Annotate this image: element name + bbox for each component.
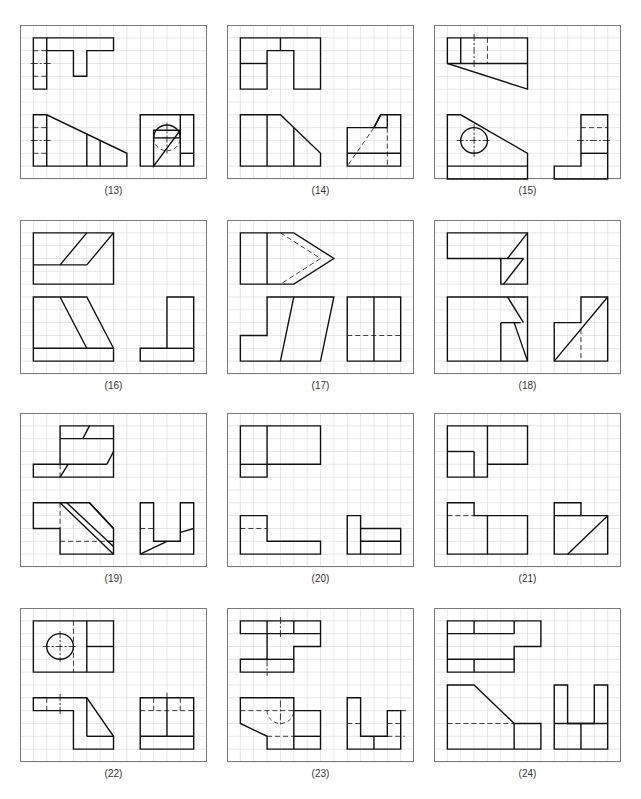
grid-drawing xyxy=(227,608,414,762)
figure-number-label: (20) xyxy=(227,573,414,584)
figure-number-label: (21) xyxy=(434,573,621,584)
figure-number-label: (22) xyxy=(20,768,207,779)
grid-drawing xyxy=(20,608,207,762)
figure-number-label: (14) xyxy=(227,185,414,196)
grid-drawing xyxy=(20,413,207,567)
drawing-panel-13 xyxy=(20,25,207,179)
figure-number-label: (19) xyxy=(20,573,207,584)
grid-drawing xyxy=(227,25,414,179)
grid-drawing xyxy=(434,608,621,762)
grid-drawing xyxy=(20,25,207,179)
figure-number-label: (16) xyxy=(20,380,207,391)
figure-number-label: (13) xyxy=(20,185,207,196)
figure-number-label: (23) xyxy=(227,768,414,779)
drawing-panel-17 xyxy=(227,220,414,374)
figure-number-label: (17) xyxy=(227,380,414,391)
figure-number-label: (24) xyxy=(434,768,621,779)
grid-drawing xyxy=(227,413,414,567)
drawing-panel-14 xyxy=(227,25,414,179)
drawing-panel-18 xyxy=(434,220,621,374)
drawing-panel-24 xyxy=(434,608,621,762)
drawing-panel-19 xyxy=(20,413,207,567)
drawing-panel-21 xyxy=(434,413,621,567)
drawing-panel-16 xyxy=(20,220,207,374)
drawing-panel-23 xyxy=(227,608,414,762)
drawing-panel-22 xyxy=(20,608,207,762)
figure-number-label: (15) xyxy=(434,185,621,196)
grid-drawing xyxy=(227,220,414,374)
grid-drawing xyxy=(434,220,621,374)
grid-drawing xyxy=(434,413,621,567)
figure-number-label: (18) xyxy=(434,380,621,391)
drawing-panel-15 xyxy=(434,25,621,179)
grid-drawing xyxy=(20,220,207,374)
grid-drawing xyxy=(434,25,621,179)
drawing-panel-20 xyxy=(227,413,414,567)
